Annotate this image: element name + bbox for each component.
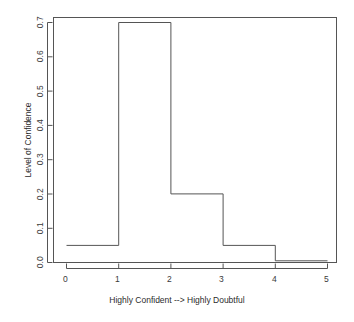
- y-tick-label-0.1: 0.1: [36, 218, 45, 238]
- x-tick-label-2: 2: [167, 275, 172, 284]
- histogram-step-outline: [67, 23, 328, 261]
- y-axis: [48, 23, 53, 263]
- plot-area: [0, 0, 354, 322]
- x-tick-label-4: 4: [272, 275, 277, 284]
- x-tick-label-0: 0: [63, 275, 68, 284]
- plot-frame: [54, 18, 337, 263]
- y-tick-label-0.7: 0.7: [36, 12, 45, 32]
- y-tick-label-0.4: 0.4: [36, 115, 45, 135]
- y-tick-label-0.2: 0.2: [36, 184, 45, 204]
- y-tick-label-0.3: 0.3: [36, 149, 45, 169]
- histogram-chart: 0 1 2 3 4 5 0.7 0.6 0.5 0.4 0.3 0.2 0.1 …: [0, 0, 354, 322]
- y-tick-label-0.0: 0.0: [36, 252, 45, 272]
- x-axis-title: Highly Confident --> Highly Doubtful: [0, 296, 354, 305]
- x-axis: [67, 264, 328, 269]
- y-tick-label-0.6: 0.6: [36, 46, 45, 66]
- x-tick-label-3: 3: [219, 275, 224, 284]
- y-tick-label-0.5: 0.5: [36, 81, 45, 101]
- x-tick-label-5: 5: [324, 275, 329, 284]
- x-tick-label-1: 1: [115, 275, 120, 284]
- y-axis-title: Level of Confidence: [24, 60, 33, 220]
